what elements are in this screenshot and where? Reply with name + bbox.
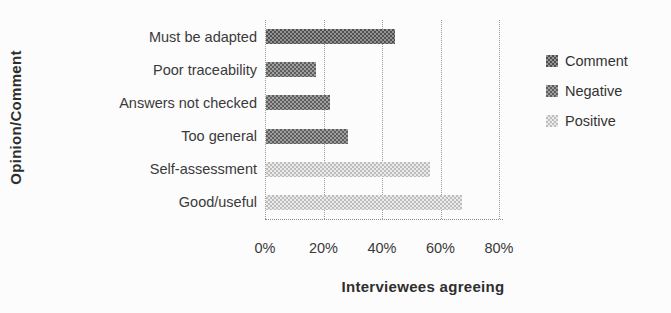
bar-chart-figure: Opinion/Comment Must be adaptedPoor trac…: [0, 0, 671, 313]
x-tick-label: 60%: [426, 240, 455, 256]
legend-item: Negative: [546, 83, 628, 99]
x-tick-label: 40%: [367, 240, 396, 256]
legend-item: Positive: [546, 113, 628, 129]
legend-swatch-icon: [546, 85, 558, 97]
legend-item: Comment: [546, 53, 628, 69]
legend: CommentNegativePositive: [546, 53, 628, 129]
legend-label: Comment: [565, 53, 628, 69]
legend-label: Negative: [565, 83, 622, 99]
x-tick-label: 20%: [309, 240, 338, 256]
x-tick-label: 80%: [484, 240, 513, 256]
x-axis-title: Interviewees agreeing: [323, 278, 523, 295]
legend-swatch-icon: [546, 55, 558, 67]
legend-swatch-icon: [546, 115, 558, 127]
x-axis-ticks: 0%20%40%60%80%: [0, 0, 671, 313]
x-tick-label: 0%: [255, 240, 276, 256]
legend-label: Positive: [565, 113, 616, 129]
